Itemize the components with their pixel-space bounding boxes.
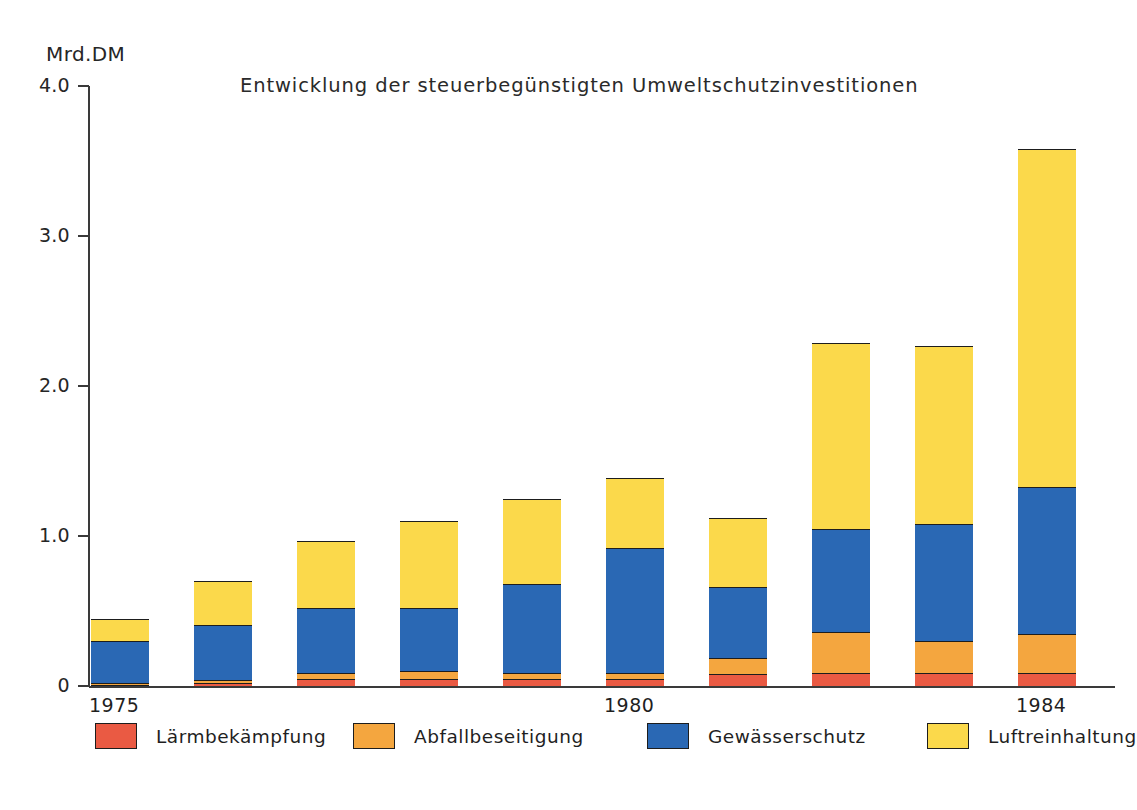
bar-segment <box>915 346 973 525</box>
bar-segment <box>606 679 664 687</box>
bar-segment <box>1018 487 1076 634</box>
legend-label: Gewässerschutz <box>708 726 866 747</box>
legend-swatch-icon <box>647 723 689 749</box>
bar-segment <box>194 581 252 625</box>
bar-segment <box>709 518 767 587</box>
bar-segment <box>812 673 870 687</box>
bar-segment <box>606 548 664 673</box>
x-axis-label-1984: 1984 <box>1016 694 1066 716</box>
bar-segment <box>503 584 561 673</box>
bar-1983[interactable] <box>915 346 973 687</box>
bar-segment <box>812 343 870 529</box>
bar-segment <box>1018 634 1076 673</box>
bar-segment <box>915 524 973 641</box>
bar-segment <box>400 608 458 671</box>
legend-label: Luftreinhaltung <box>988 726 1137 747</box>
bar-1977[interactable] <box>297 541 355 687</box>
bar-1981[interactable] <box>709 518 767 686</box>
legend-item-3[interactable]: Luftreinhaltung <box>927 723 1137 749</box>
bar-segment <box>503 499 561 585</box>
bar-segment <box>1018 673 1076 687</box>
bar-segment <box>709 658 767 675</box>
bar-segment <box>1018 149 1076 487</box>
bar-1982[interactable] <box>812 343 870 687</box>
legend-label: Abfallbeseitigung <box>414 726 584 747</box>
chart-legend: LärmbekämpfungAbfallbeseitigungGewässers… <box>95 723 1055 763</box>
bar-segment <box>194 683 252 686</box>
x-axis-label-1975: 1975 <box>89 694 139 716</box>
bar-segment <box>709 587 767 658</box>
bar-segment <box>297 541 355 609</box>
bar-1975[interactable] <box>91 619 149 687</box>
bar-segment <box>297 608 355 673</box>
legend-swatch-icon <box>353 723 395 749</box>
bar-1976[interactable] <box>194 581 252 686</box>
bar-segment <box>297 679 355 687</box>
bar-1978[interactable] <box>400 521 458 686</box>
legend-label: Lärmbekämpfung <box>156 726 326 747</box>
bar-segment <box>400 679 458 687</box>
bar-segment <box>91 685 149 687</box>
bar-segment <box>915 641 973 673</box>
legend-item-1[interactable]: Abfallbeseitigung <box>353 723 584 749</box>
bar-segment <box>400 521 458 608</box>
bar-segment <box>91 619 149 642</box>
bar-1984[interactable] <box>1018 149 1076 686</box>
bar-segment <box>915 673 973 687</box>
legend-item-2[interactable]: Gewässerschutz <box>647 723 866 749</box>
bar-segment <box>709 674 767 686</box>
legend-swatch-icon <box>927 723 969 749</box>
bar-1980[interactable] <box>606 478 664 687</box>
x-axis-label-1980: 1980 <box>604 694 654 716</box>
bar-segment <box>194 625 252 681</box>
legend-item-0[interactable]: Lärmbekämpfung <box>95 723 326 749</box>
bar-segment <box>812 632 870 673</box>
bar-segment <box>400 671 458 679</box>
legend-swatch-icon <box>95 723 137 749</box>
bar-segment <box>606 478 664 549</box>
bar-segment <box>503 679 561 687</box>
bar-segment <box>812 529 870 633</box>
bar-segment <box>91 641 149 683</box>
bar-1979[interactable] <box>503 499 561 687</box>
